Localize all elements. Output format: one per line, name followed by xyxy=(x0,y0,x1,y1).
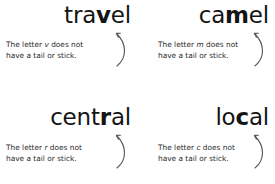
arrow-curve xyxy=(255,136,263,168)
caption-line-1: The letter v does not xyxy=(6,40,83,51)
caption-line-2: have a tail or stick. xyxy=(158,154,235,165)
caption-travel: The letter v does not have a tail or sti… xyxy=(6,40,83,61)
caption-line-2: have a tail or stick. xyxy=(158,51,238,62)
caption-text-after: does not xyxy=(47,143,81,152)
caption-line-1: The letter r does not xyxy=(6,143,82,154)
panel-central: central The letter r does not have a tai… xyxy=(0,92,137,184)
arrow-curve xyxy=(117,136,125,168)
caption-camel: The letter m does not have a tail or sti… xyxy=(158,40,238,61)
caption-text-after: does not xyxy=(201,143,235,152)
caption-line-2: have a tail or stick. xyxy=(6,154,82,165)
caption-local: The letter c does not have a tail or sti… xyxy=(158,143,235,164)
curved-arrow-up-left-icon xyxy=(87,124,129,170)
panel-travel: travel The letter v does not have a tail… xyxy=(0,0,137,92)
handwriting-letters-figure: travel The letter v does not have a tail… xyxy=(0,0,275,184)
caption-line-2: have a tail or stick. xyxy=(6,51,83,62)
curved-arrow-up-left-icon xyxy=(87,22,129,68)
caption-italic-letter: m xyxy=(196,40,203,49)
panel-local: local The letter c does not have a tail … xyxy=(138,92,275,184)
panel-camel: camel The letter m does not have a tail … xyxy=(138,0,275,92)
caption-text-before: The letter xyxy=(158,143,196,152)
caption-central: The letter r does not have a tail or sti… xyxy=(6,143,82,164)
caption-text-after: does not xyxy=(49,40,83,49)
arrow-curve xyxy=(117,34,125,66)
caption-text-before: The letter xyxy=(158,40,196,49)
caption-line-1: The letter m does not xyxy=(158,40,238,51)
caption-line-1: The letter c does not xyxy=(158,143,235,154)
caption-text-before: The letter xyxy=(6,40,44,49)
arrow-curve xyxy=(255,34,263,66)
caption-text-before: The letter xyxy=(6,143,44,152)
caption-text-after: does not xyxy=(204,40,238,49)
word-prefix: ca xyxy=(199,2,225,28)
